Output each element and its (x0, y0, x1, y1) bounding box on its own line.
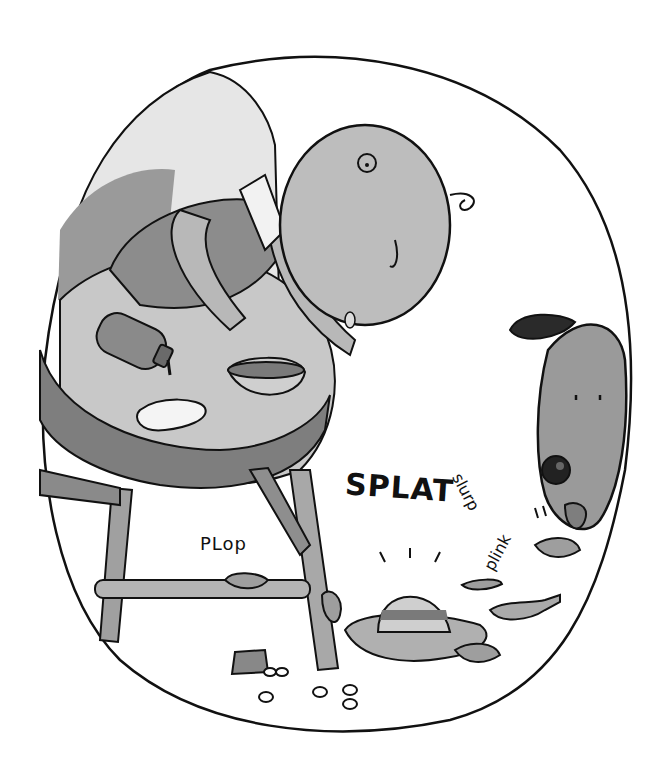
sfx-splat-text: SPLAT (344, 466, 455, 509)
bottle-drip (168, 360, 170, 375)
sfx-plop-text: PLop (200, 533, 247, 554)
chair-rung (95, 580, 310, 598)
baby-drool (345, 312, 355, 328)
tipped-cup (232, 650, 268, 674)
illustration: SPLAT PLop slurp plink (0, 0, 654, 772)
illustration-canvas (0, 0, 654, 772)
dog-nose (542, 456, 570, 484)
